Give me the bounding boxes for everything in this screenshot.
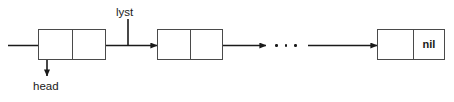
node-data-cell (39, 30, 73, 59)
node-pointer-cell (73, 30, 106, 59)
node-data-cell (378, 30, 414, 59)
node-data-cell (158, 30, 191, 59)
linked-list-diagram: nil lyst head (0, 0, 454, 102)
ellipsis-indicator (275, 44, 297, 47)
ellipsis-dot (294, 44, 297, 47)
ellipsis-dot (275, 44, 278, 47)
head-label: head (33, 81, 59, 93)
lyst-label: lyst (116, 7, 133, 19)
nil-label: nil (423, 39, 436, 50)
node-nil-cell: nil (414, 30, 444, 59)
list-node-last: nil (377, 29, 445, 60)
ellipsis-dot (285, 44, 288, 47)
list-node-first (38, 29, 106, 60)
list-node-second (157, 29, 223, 60)
node-pointer-cell (191, 30, 223, 59)
